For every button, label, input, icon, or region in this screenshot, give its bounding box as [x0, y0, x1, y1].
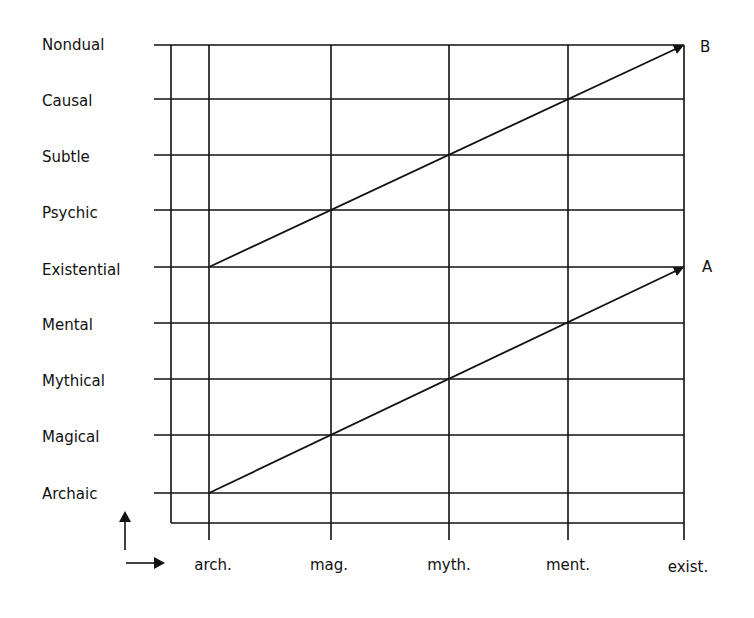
x-label-arch: arch.: [194, 556, 232, 574]
x-label-mag: mag.: [310, 556, 348, 574]
y-label-archaic: Archaic: [42, 485, 97, 503]
grid-frame: [171, 45, 684, 523]
y-label-existential: Existential: [42, 261, 120, 279]
y-label-subtle: Subtle: [42, 148, 90, 166]
diagram-canvas: [0, 0, 754, 618]
y-label-magical: Magical: [42, 428, 99, 446]
grid-vertical-lines: [209, 45, 684, 540]
x-label-exist: exist.: [668, 558, 708, 576]
y-label-nondual: Nondual: [42, 36, 104, 54]
x-label-ment: ment.: [546, 556, 590, 574]
y-label-causal: Causal: [42, 92, 92, 110]
y-label-psychic: Psychic: [42, 204, 98, 222]
line-b: [209, 46, 682, 267]
y-label-mental: Mental: [42, 316, 93, 334]
series-label-a: A: [702, 258, 712, 276]
y-label-mythical: Mythical: [42, 372, 105, 390]
axis-direction-right-arrow-icon: [126, 557, 165, 569]
x-label-myth: myth.: [427, 556, 471, 574]
series-label-b: B: [700, 38, 710, 56]
axis-direction-up-arrow-icon: [119, 511, 131, 550]
line-a: [209, 268, 682, 493]
grid-horizontal-lines: [154, 45, 684, 493]
